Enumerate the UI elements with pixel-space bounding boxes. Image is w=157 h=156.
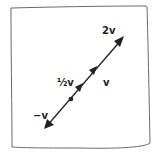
label-2v: 2v: [102, 26, 115, 36]
frame: [11, 6, 150, 148]
origin-dot-icon: [69, 97, 74, 102]
arrowhead-half-v-icon: [75, 83, 83, 92]
arrowhead-2v-icon: [114, 36, 124, 47]
diagram-svg: [0, 0, 157, 156]
arrowhead-v-icon: [89, 66, 97, 75]
label-v: v: [103, 78, 110, 88]
label-half-v: ½v: [57, 78, 74, 88]
diagram-canvas: 2v ½v v −v: [0, 0, 157, 156]
label-neg-v: −v: [33, 111, 48, 121]
